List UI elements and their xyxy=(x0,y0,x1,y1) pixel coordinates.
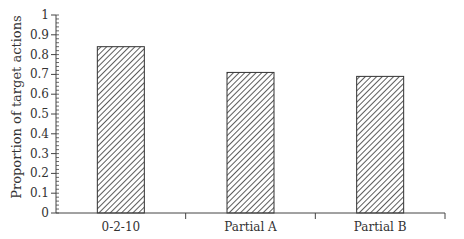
y-tick-label: 0.5 xyxy=(30,107,49,121)
x-axis: 0-2-10Partial APartial B xyxy=(56,213,445,234)
y-tick-label: 0.6 xyxy=(30,87,49,101)
x-tick-label: Partial B xyxy=(354,220,407,234)
x-tick-label: 0-2-10 xyxy=(102,220,141,234)
y-tick-label: 0.1 xyxy=(30,186,49,200)
bar-0-2-10 xyxy=(97,47,144,213)
y-axis: 00.10.20.30.40.50.60.70.80.91 xyxy=(30,8,59,220)
y-tick-label: 1 xyxy=(41,8,49,22)
y-tick-label: 0.3 xyxy=(30,147,49,161)
y-tick-label: 0.2 xyxy=(30,166,49,180)
y-tick-label: 0.7 xyxy=(30,67,49,81)
bar-partial-a xyxy=(227,72,274,213)
bar-chart: 00.10.20.30.40.50.60.70.80.91 0-2-10Part… xyxy=(0,0,464,239)
y-tick-label: 0.9 xyxy=(30,28,49,42)
x-tick-label: Partial A xyxy=(224,220,277,234)
y-tick-label: 0.4 xyxy=(30,127,49,141)
bar-partial-b xyxy=(357,76,404,213)
bars xyxy=(97,47,403,213)
y-tick-label: 0 xyxy=(41,206,49,220)
y-tick-label: 0.8 xyxy=(30,48,49,62)
